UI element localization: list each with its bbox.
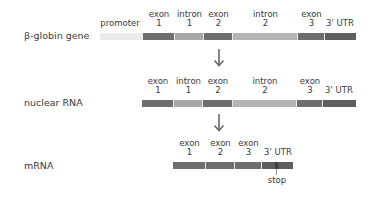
- gene-exon-1-segment: [143, 33, 175, 40]
- rna-intron-1-segment: [174, 100, 203, 107]
- label-mrna-exon-2: exon2: [206, 139, 235, 157]
- gene-intron-1-segment: [175, 33, 204, 40]
- rna-utr-segment: [323, 100, 356, 107]
- label-rna-exon-1: exon1: [142, 77, 174, 95]
- label-mrna-exon-1: exon1: [173, 139, 206, 157]
- label-rna-utr: 3' UTR: [320, 86, 358, 95]
- label-rna-exon-2: exon2: [203, 77, 233, 95]
- row-label-mrna: mRNA: [24, 160, 53, 171]
- mrna-exon-3-segment: [235, 162, 262, 169]
- gene-intron-2-segment: [233, 33, 298, 40]
- label-mrna-utr: 3' UTR: [260, 148, 296, 157]
- gene-exon-2-segment: [204, 33, 233, 40]
- label-rna-intron-1: intron1: [174, 77, 203, 95]
- arrow-down-icon: [213, 49, 225, 67]
- label-gene-exon-3: exon3: [298, 10, 325, 28]
- gene-utr-segment: [325, 33, 356, 40]
- row-label-nuclear-rna: nuclear RNA: [24, 97, 83, 108]
- label-gene-intron-2: intron2: [233, 10, 298, 28]
- label-promoter: promoter: [98, 19, 142, 28]
- label-gene-utr: 3' UTR: [322, 19, 358, 28]
- label-mrna-exon-3: exon3: [235, 139, 262, 157]
- arrow-down-icon: [213, 114, 225, 132]
- rna-intron-2-segment: [233, 100, 297, 107]
- rna-exon-3-segment: [297, 100, 323, 107]
- label-rna-intron-2: intron2: [233, 77, 297, 95]
- label-gene-exon-1: exon1: [143, 10, 175, 28]
- mrna-exon-2-segment: [206, 162, 235, 169]
- gene-promoter-segment: [100, 33, 143, 40]
- label-gene-intron-1: intron1: [175, 10, 204, 28]
- stop-codon-marker: [275, 162, 278, 169]
- row-label-gene: β-globin gene: [24, 30, 89, 41]
- rna-exon-2-segment: [203, 100, 233, 107]
- mrna-exon-1-segment: [173, 162, 206, 169]
- label-gene-exon-2: exon2: [204, 10, 233, 28]
- rna-exon-1-segment: [142, 100, 174, 107]
- gene-exon-3-segment: [298, 33, 325, 40]
- stop-label: stop: [264, 176, 290, 185]
